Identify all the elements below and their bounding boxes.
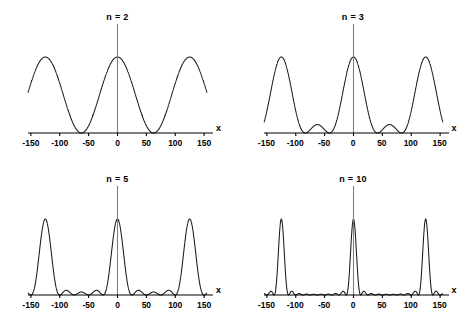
x-tick-label: -50 (318, 138, 330, 148)
x-axis-label: x (216, 285, 221, 295)
x-tick-label: 50 (377, 138, 386, 148)
x-tick-label: -100 (51, 300, 68, 310)
panel-label-n2: n = 2 (106, 12, 128, 22)
panel-label-n3: n = 3 (342, 12, 364, 22)
panel-n2: n = 2-150-100-50050100150x (0, 0, 235, 162)
x-axis-label: x (452, 123, 457, 133)
x-tick-label: 50 (377, 300, 386, 310)
x-tick-label: -150 (258, 300, 275, 310)
x-tick-label: 0 (115, 138, 120, 148)
x-tick-label: 150 (197, 138, 211, 148)
x-tick-label: 50 (142, 138, 151, 148)
panel-label-n10: n = 10 (339, 174, 367, 184)
x-tick-label: -50 (318, 300, 330, 310)
x-axis-label: x (216, 123, 221, 133)
x-tick-label: 0 (115, 300, 120, 310)
x-tick-label: 100 (168, 138, 182, 148)
panel-n3: n = 3-150-100-50050100150x (236, 0, 471, 162)
x-tick-label: 0 (351, 300, 356, 310)
x-tick-label: -50 (82, 300, 94, 310)
x-tick-label: 100 (168, 300, 182, 310)
x-tick-label: 150 (433, 138, 447, 148)
x-tick-label: 150 (433, 300, 447, 310)
x-tick-label: -100 (287, 138, 304, 148)
x-tick-label: 50 (142, 300, 151, 310)
x-axis-label: x (452, 285, 457, 295)
x-tick-label: -150 (22, 300, 39, 310)
x-tick-label: -50 (82, 138, 94, 148)
x-tick-label: -150 (258, 138, 275, 148)
x-tick-label: 100 (404, 300, 418, 310)
x-tick-label: 150 (197, 300, 211, 310)
interference-figure: n = 2-150-100-50050100150x n = 3-150-100… (0, 0, 471, 324)
x-tick-label: -100 (287, 300, 304, 310)
panel-n5: n = 5-150-100-50050100150x (0, 162, 235, 324)
x-tick-label: 100 (404, 138, 418, 148)
panel-label-n5: n = 5 (106, 174, 128, 184)
x-tick-label: -150 (22, 138, 39, 148)
x-tick-label: -100 (51, 138, 68, 148)
panel-n10: n = 10-150-100-50050100150x (236, 162, 471, 324)
x-tick-label: 0 (351, 138, 356, 148)
